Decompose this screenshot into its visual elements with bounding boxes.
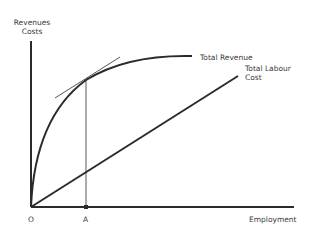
y-axis-label-line2: Costs (12, 27, 52, 36)
total-labour-cost-label-line1: Total Labour (245, 64, 291, 73)
point-a-marker (84, 205, 88, 209)
total-labour-cost-line (31, 76, 238, 207)
y-axis-label: Revenues Costs (12, 18, 52, 36)
total-revenue-label: Total Revenue (200, 53, 253, 62)
total-revenue-curve (31, 56, 192, 207)
x-axis-label: Employment (249, 215, 297, 224)
tangent-line (55, 57, 120, 98)
point-a-label: A (83, 215, 88, 224)
total-labour-cost-label-line2: Cost (245, 73, 291, 82)
total-labour-cost-label: Total Labour Cost (245, 64, 291, 82)
origin-label: O (28, 215, 34, 224)
y-axis-label-line1: Revenues (12, 18, 52, 27)
